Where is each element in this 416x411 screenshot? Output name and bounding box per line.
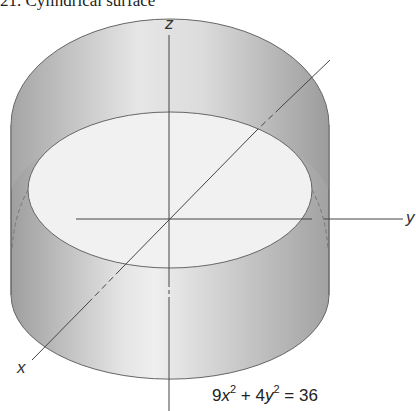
elliptic-cylinder-diagram — [0, 0, 416, 411]
x-axis-label: x — [17, 358, 26, 378]
equation-label: 9x2 + 4y2 = 36 — [212, 384, 318, 406]
y-axis-label: y — [406, 208, 415, 228]
z-axis-label: z — [165, 14, 174, 34]
cross-section-ellipse — [28, 112, 312, 268]
